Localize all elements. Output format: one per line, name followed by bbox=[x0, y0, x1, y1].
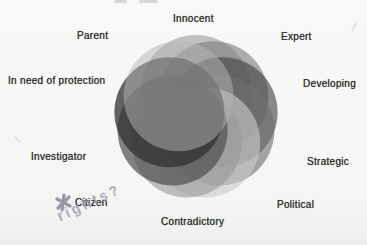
scanned-diagram-page: Innocent Expert Developing Strategic Pol… bbox=[0, 0, 367, 245]
label-parent: Parent bbox=[77, 30, 108, 41]
circle-parent bbox=[124, 41, 234, 151]
label-strategic: Strategic bbox=[307, 156, 349, 167]
label-developing: Developing bbox=[303, 78, 356, 89]
label-contradictory: Contradictory bbox=[161, 216, 224, 227]
label-innocent: Innocent bbox=[173, 13, 214, 24]
label-expert: Expert bbox=[281, 31, 312, 42]
label-investigator: Investigator bbox=[31, 151, 86, 162]
label-political: Political bbox=[277, 199, 314, 210]
label-in-need-of-protection: In need of protection bbox=[8, 75, 105, 86]
